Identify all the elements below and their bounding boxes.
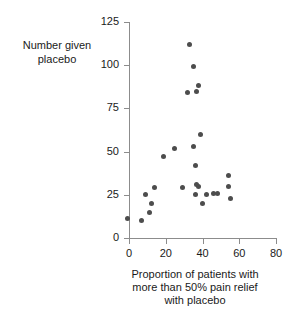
- scatter-plot-figure: Number given placebo 0255075100125 02040…: [0, 0, 297, 322]
- y-tick-label-0: 0: [89, 232, 119, 243]
- y-tick-label-125: 125: [89, 16, 119, 27]
- data-point: [191, 144, 196, 149]
- x-axis-title-line-3: with placebo: [100, 294, 290, 307]
- data-point: [139, 218, 144, 223]
- data-point: [149, 201, 154, 206]
- data-point: [226, 173, 231, 178]
- x-tick-60: [239, 239, 240, 244]
- data-point: [228, 196, 233, 201]
- data-point: [198, 132, 203, 137]
- data-point: [152, 185, 157, 190]
- y-tick-label-50: 50: [89, 146, 119, 157]
- data-point: [196, 83, 201, 88]
- data-point: [193, 192, 198, 197]
- y-tick-label-25: 25: [89, 189, 119, 200]
- y-axis-title-line-1: Number given: [8, 38, 106, 52]
- data-point: [215, 191, 220, 196]
- x-tick-label-60: 60: [226, 248, 252, 259]
- data-point: [185, 90, 190, 95]
- data-point: [161, 154, 166, 159]
- data-point: [147, 210, 152, 215]
- data-point: [200, 201, 205, 206]
- plot-area: [129, 22, 276, 238]
- x-tick-20: [166, 239, 167, 244]
- data-point: [193, 163, 198, 168]
- data-point: [194, 89, 199, 94]
- x-tick-label-40: 40: [190, 248, 216, 259]
- data-point: [191, 64, 196, 69]
- x-tick-label-0: 0: [116, 248, 142, 259]
- x-tick-label-20: 20: [153, 248, 179, 259]
- data-point: [143, 192, 148, 197]
- data-point: [196, 184, 201, 189]
- x-axis-title-line-2: more than 50% pain relief: [100, 281, 290, 294]
- y-tick-label-75: 75: [89, 102, 119, 113]
- data-point: [187, 42, 192, 47]
- data-point: [180, 185, 185, 190]
- x-tick-0: [129, 239, 130, 244]
- data-point: [226, 184, 231, 189]
- x-tick-40: [203, 239, 204, 244]
- x-tick-label-80: 80: [263, 248, 289, 259]
- y-tick-label-100: 100: [89, 59, 119, 70]
- x-axis-title-line-1: Proportion of patients with: [100, 268, 290, 281]
- data-point: [204, 192, 209, 197]
- data-point: [125, 216, 130, 221]
- x-tick-80: [276, 239, 277, 244]
- data-point: [172, 146, 177, 151]
- x-axis-title: Proportion of patients with more than 50…: [100, 268, 290, 307]
